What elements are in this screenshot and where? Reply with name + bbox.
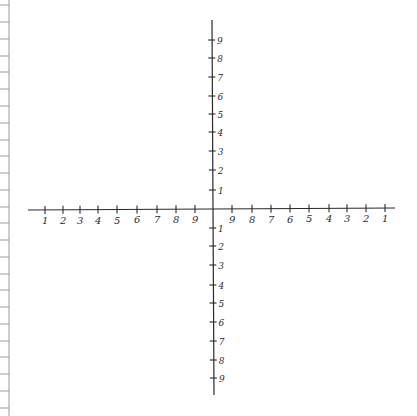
y-axis-tick-label: 2 <box>217 242 224 252</box>
x-axis-tick-label: 1 <box>382 213 388 224</box>
y-axis-tick-label: 6 <box>219 318 225 328</box>
x-axis-tick-label: 5 <box>114 215 120 226</box>
x-axis-tick-label: 4 <box>325 213 332 224</box>
x-axis-tick-label: 9 <box>192 214 199 225</box>
x-axis-tick-label: 7 <box>268 214 275 225</box>
y-axis-tick-label: 9 <box>219 374 225 384</box>
y-axis-tick-label: 1 <box>218 224 224 234</box>
x-axis-tick-label: 8 <box>249 214 255 225</box>
y-axis-tick-label: 2 <box>217 166 224 176</box>
y-axis-tick-label: 8 <box>219 356 225 366</box>
x-axis-tick-label: 6 <box>134 214 141 225</box>
x-axis-tick-label: 1 <box>42 215 48 226</box>
y-axis-tick-label: 4 <box>217 128 224 138</box>
y-axis-tick-label: 4 <box>217 281 224 291</box>
y-axis-tick-label: 1 <box>218 186 224 196</box>
coordinate-plane-diagram: 123456789987654321 987654321123456789 <box>0 0 417 416</box>
x-axis-tick-label: 4 <box>94 215 101 226</box>
x-axis-line <box>28 208 395 210</box>
notebook-margin <box>0 0 9 416</box>
y-axis-tick-label: 7 <box>217 73 223 83</box>
x-axis-tick-label: 2 <box>59 215 66 226</box>
x-axis-tick-label: 8 <box>173 214 179 225</box>
x-axis-tick-label: 3 <box>344 213 350 224</box>
y-axis-tick-label: 5 <box>218 110 224 120</box>
y-axis-tick-label: 6 <box>217 92 223 102</box>
y-axis-tick-label: 8 <box>217 54 223 64</box>
y-axis-tick-label: 9 <box>217 36 223 46</box>
y-axis: 987654321123456789 <box>208 20 225 395</box>
x-axis: 123456789987654321 <box>28 204 395 226</box>
y-axis-line <box>212 20 214 395</box>
y-axis-tick-label: 3 <box>218 147 224 157</box>
x-axis-tick-label: 2 <box>362 213 369 224</box>
y-axis-tick-label: 3 <box>218 261 224 271</box>
y-axis-tick-label: 7 <box>219 337 225 347</box>
x-axis-tick-label: 9 <box>229 214 236 225</box>
y-axis-tick-label: 5 <box>219 299 225 309</box>
x-axis-tick-label: 3 <box>77 215 83 226</box>
x-axis-tick-label: 7 <box>154 214 161 225</box>
x-axis-tick-label: 5 <box>306 213 312 224</box>
x-axis-tick-label: 6 <box>287 214 294 225</box>
